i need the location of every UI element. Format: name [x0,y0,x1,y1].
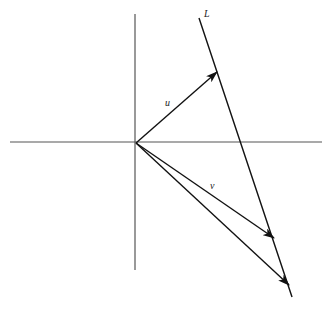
vector-diagram: L u v [0,0,331,311]
label-L: L [203,8,210,19]
line-L [199,18,292,297]
vector-w [136,143,289,285]
vector-u [136,72,217,143]
label-u: u [165,97,170,108]
label-v: v [210,180,215,191]
vector-v [136,143,274,238]
